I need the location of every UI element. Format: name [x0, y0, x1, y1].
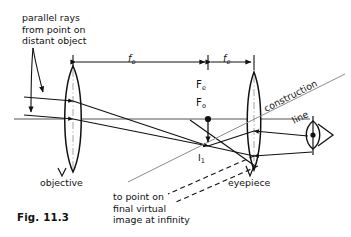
focal-eyepiece-subscript: e	[202, 84, 206, 92]
intermediate-image-label: I1	[198, 152, 205, 166]
label-pointer-objective	[58, 168, 66, 176]
emergent-rays	[254, 131, 312, 156]
eyepiece-label: eyepiece	[228, 177, 270, 189]
dimension-f-eyepiece	[211, 55, 254, 70]
virtual-image-caption: to point on final virtual image at infin…	[113, 191, 190, 226]
label-pointer-parallel-rays	[31, 48, 43, 112]
focal-eyepiece-letter: F	[196, 79, 202, 90]
focal-point-eyepiece-label: Fe	[196, 79, 206, 93]
refracted-rays	[73, 101, 208, 146]
focal-point-marker	[205, 116, 211, 142]
f-objective-label: fo	[128, 53, 135, 64]
focal-objective-letter: F	[196, 97, 202, 108]
figure-number: Fig. 11.3	[17, 212, 69, 224]
focal-point-objective-label: Fo	[196, 97, 206, 111]
focal-objective-subscript: o	[202, 102, 206, 110]
parallel-rays-label: parallel rays from point on distant obje…	[22, 12, 86, 47]
f-objective-subscript: o	[131, 58, 135, 66]
eye-icon	[306, 116, 333, 155]
f-eyepiece-label: fe	[223, 53, 230, 64]
objective-label: objective	[40, 177, 83, 189]
figure-canvas: parallel rays from point on distant obje…	[0, 0, 351, 237]
intermediate-image-subscript: 1	[201, 157, 205, 165]
f-eyepiece-subscript: e	[226, 58, 230, 66]
dimension-f-objective	[73, 55, 208, 70]
